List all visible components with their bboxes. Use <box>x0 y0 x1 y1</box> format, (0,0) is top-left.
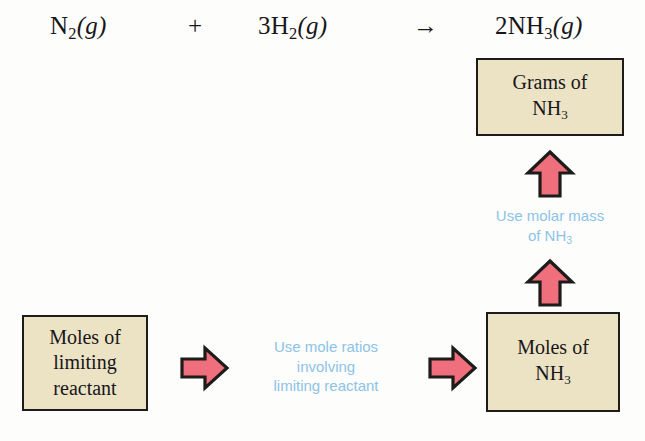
diagram-canvas: N2(g) + 3H2(g) → 2NH3(g) Grams ofNH3 Use… <box>0 0 645 441</box>
box-line-2: limiting <box>53 351 116 373</box>
box-line-1: Moles of <box>517 336 589 358</box>
note-line-1: Use molar mass <box>496 207 604 224</box>
note-line-3: limiting reactant <box>273 377 378 394</box>
box-moles-of-limiting-reactant-label: Moles oflimitingreactant <box>45 325 125 402</box>
phase-label-gas: (g) <box>553 12 583 39</box>
box-line-1: Grams of <box>513 71 588 93</box>
subscript-3: 3 <box>561 107 568 122</box>
subscript-3: 3 <box>566 233 572 245</box>
subscript-3: 3 <box>564 372 571 387</box>
box-moles-of-nh3-label: Moles ofNH3 <box>513 335 593 388</box>
note-use-molar-mass: Use molar massof NH3 <box>474 206 626 247</box>
note-line-2: of NH <box>528 227 566 244</box>
box-line-3: reactant <box>53 377 116 399</box>
equation-reactant-h2: 3H2(g) <box>258 12 327 44</box>
phase-label-gas: (g) <box>297 12 327 39</box>
subscript-2: 2 <box>68 24 76 43</box>
equation-product-nh3: 2NH3(g) <box>495 12 582 44</box>
box-moles-of-nh3: Moles ofNH3 <box>486 312 620 412</box>
note-line-1: Use mole ratios <box>274 338 378 355</box>
box-line-2: NH <box>535 362 564 384</box>
box-line-2: NH <box>532 97 561 119</box>
arrow-right-from-limiting-reactant-icon <box>180 345 230 391</box>
box-line-1: Moles of <box>49 326 121 348</box>
equation-reactant-n2: N2(g) <box>50 12 106 44</box>
subscript-3: 3 <box>544 24 552 43</box>
arrow-right-to-moles-nh3-icon <box>428 345 478 391</box>
note-line-2: involving <box>297 358 355 375</box>
arrow-up-to-grams-icon <box>524 150 576 198</box>
equation-yields-arrow: → <box>413 12 438 40</box>
equation-plus-operator: + <box>188 12 202 40</box>
box-moles-of-limiting-reactant: Moles oflimitingreactant <box>22 315 148 411</box>
arrow-up-from-moles-nh3-icon <box>524 259 576 307</box>
phase-label-gas: (g) <box>77 12 107 39</box>
note-use-mole-ratios: Use mole ratiosinvolvinglimiting reactan… <box>228 337 424 396</box>
box-grams-of-nh3-label: Grams ofNH3 <box>509 70 592 123</box>
box-grams-of-nh3: Grams ofNH3 <box>476 58 624 136</box>
